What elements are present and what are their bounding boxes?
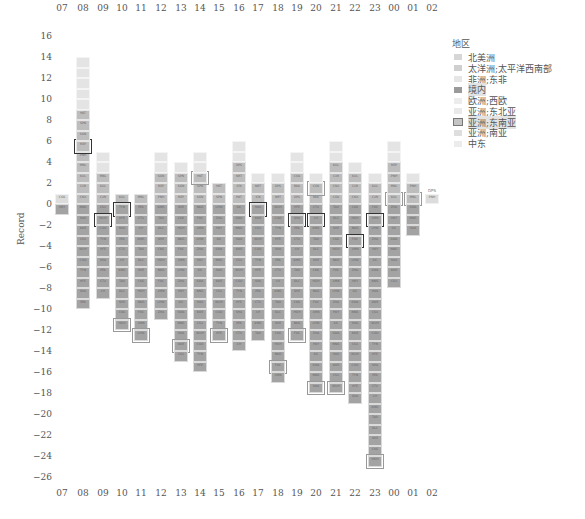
bar-block-domestic[interactable]: XMN xyxy=(134,320,148,331)
bar-block-domestic[interactable]: SHE xyxy=(290,288,304,299)
bar-block-domestic[interactable]: CKG xyxy=(271,330,285,341)
bar-block-domestic[interactable]: SHA xyxy=(96,257,110,268)
bar-block-foreign[interactable]: DPS xyxy=(290,194,304,205)
bar-block-foreign[interactable]: REP xyxy=(76,141,90,152)
bar-block-domestic[interactable]: HFE xyxy=(271,236,285,247)
bar-block-domestic[interactable]: HFE xyxy=(232,299,246,310)
bar-block-domestic[interactable]: HKY xyxy=(309,341,323,352)
bar-block-foreign[interactable] xyxy=(406,173,420,184)
bar-block-domestic[interactable]: XMN xyxy=(368,215,382,226)
bar-block-domestic[interactable]: ZHA xyxy=(174,278,188,289)
bar-block-domestic[interactable]: TYN xyxy=(115,204,129,215)
bar-block-domestic[interactable]: CKG xyxy=(329,236,343,247)
bar-block-domestic[interactable]: TAO xyxy=(251,330,265,341)
bar-block-domestic[interactable]: HGH xyxy=(309,278,323,289)
bar-block-domestic[interactable]: FOC xyxy=(309,299,323,310)
bar-block-domestic[interactable]: NKG xyxy=(309,288,323,299)
bar-block-domestic[interactable]: SWA xyxy=(232,215,246,226)
bar-block-foreign[interactable] xyxy=(251,173,265,184)
bar-block-domestic[interactable]: CGO xyxy=(348,362,362,373)
bar-block-domestic[interactable]: SHA xyxy=(348,393,362,404)
bar-block-foreign[interactable]: NRT xyxy=(232,173,246,184)
bar-block-domestic[interactable]: TYN xyxy=(232,288,246,299)
bar-block-domestic[interactable]: CSX xyxy=(193,320,207,331)
bar-block-foreign[interactable]: CXR xyxy=(348,183,362,194)
bar-block-foreign[interactable]: SPN xyxy=(174,173,188,184)
bar-block-foreign[interactable]: NRT xyxy=(271,194,285,205)
bar-block-domestic[interactable]: CTU xyxy=(271,267,285,278)
bar-block-foreign[interactable]: BKK xyxy=(309,194,323,205)
bar-block-domestic[interactable]: FOC xyxy=(329,267,343,278)
bar-block-domestic[interactable]: KWE xyxy=(387,267,401,278)
bar-block-foreign[interactable]: SGN xyxy=(193,194,207,205)
bar-block-domestic[interactable]: CTU xyxy=(134,215,148,226)
bar-block-domestic[interactable]: HGH xyxy=(271,341,285,352)
legend-item[interactable]: 亚洲;南亚 xyxy=(452,128,552,139)
bar-block-domestic[interactable]: CTU xyxy=(368,383,382,394)
bar-block-domestic[interactable]: SIC xyxy=(174,299,188,310)
bar-block-domestic[interactable]: TAO xyxy=(329,204,343,215)
bar-block-domestic[interactable]: PEK xyxy=(271,257,285,268)
bar-block-domestic[interactable]: LHW xyxy=(193,236,207,247)
bar-block-domestic[interactable]: CGO xyxy=(368,330,382,341)
bar-block-domestic[interactable]: HAK xyxy=(309,383,323,394)
bar-block-domestic[interactable]: SWA xyxy=(329,330,343,341)
bar-block-domestic[interactable]: XMN xyxy=(193,225,207,236)
bar-block-domestic[interactable]: CGO xyxy=(212,309,226,320)
bar-block-domestic[interactable]: LHW xyxy=(309,320,323,331)
bar-block-domestic[interactable]: XMN xyxy=(309,309,323,320)
bar-block-domestic[interactable]: SIC xyxy=(193,267,207,278)
bar-block-domestic[interactable]: CSX xyxy=(76,236,90,247)
bar-block-domestic[interactable]: SHE xyxy=(174,204,188,215)
bar-block-domestic[interactable]: CTU xyxy=(309,204,323,215)
bar-block-domestic[interactable]: ZHA xyxy=(387,204,401,215)
bar-block-domestic[interactable]: HKY xyxy=(55,204,69,215)
bar-block-domestic[interactable]: HAK xyxy=(193,299,207,310)
bar-block-foreign[interactable] xyxy=(76,57,90,68)
bar-block-domestic[interactable]: DLC xyxy=(329,215,343,226)
bar-block-foreign[interactable] xyxy=(96,152,110,163)
bar-block-domestic[interactable]: CKG xyxy=(154,246,168,257)
bar-block-foreign[interactable] xyxy=(387,141,401,152)
bar-block-foreign[interactable]: SPN xyxy=(76,120,90,131)
bar-block-domestic[interactable]: LHW xyxy=(134,330,148,341)
bar-block-domestic[interactable]: NNG xyxy=(193,288,207,299)
bar-block-foreign[interactable] xyxy=(193,152,207,163)
bar-block-foreign[interactable]: SGN xyxy=(174,183,188,194)
bar-block-foreign[interactable]: PNH xyxy=(76,152,90,163)
bar-block-domestic[interactable]: PEK xyxy=(251,288,265,299)
bar-block-domestic[interactable]: XIY xyxy=(271,278,285,289)
bar-block-domestic[interactable]: WUH xyxy=(251,236,265,247)
bar-block-domestic[interactable]: NKG xyxy=(329,257,343,268)
bar-block-domestic[interactable]: XMN xyxy=(329,278,343,289)
bar-block-domestic[interactable]: FOC xyxy=(348,236,362,247)
bar-block-domestic[interactable]: KWE xyxy=(368,299,382,310)
bar-block-domestic[interactable]: DLC xyxy=(309,246,323,257)
bar-block-domestic[interactable]: CKG xyxy=(309,267,323,278)
bar-block-domestic[interactable]: HAK xyxy=(174,330,188,341)
bar-block-foreign[interactable]: SGN xyxy=(154,173,168,184)
bar-block-foreign[interactable]: SGN xyxy=(76,131,90,142)
bar-block-domestic[interactable]: HAK xyxy=(251,204,265,215)
bar-block-domestic[interactable]: CSX xyxy=(368,309,382,320)
bar-block-foreign[interactable]: HKT xyxy=(232,194,246,205)
bar-block-domestic[interactable]: FOC xyxy=(368,204,382,215)
bar-block-domestic[interactable]: KMG xyxy=(368,404,382,415)
bar-block-domestic[interactable]: HKY xyxy=(348,278,362,289)
bar-block-domestic[interactable]: HFE xyxy=(193,362,207,373)
bar-block-domestic[interactable]: NNG xyxy=(174,320,188,331)
bar-block-domestic[interactable]: NNG xyxy=(387,246,401,257)
bar-block-domestic[interactable]: SHE xyxy=(271,320,285,331)
bar-block-domestic[interactable]: NKG xyxy=(193,204,207,215)
bar-block-domestic[interactable]: DLC xyxy=(368,425,382,436)
bar-block-domestic[interactable]: CSX xyxy=(96,204,110,215)
bar-block-domestic[interactable]: WUH xyxy=(368,320,382,331)
bar-block-domestic[interactable]: SWA xyxy=(368,267,382,278)
bar-block-foreign[interactable] xyxy=(348,162,362,173)
bar-block-foreign[interactable]: CGK xyxy=(309,183,323,194)
bar-block-domestic[interactable]: NKG xyxy=(154,267,168,278)
bar-block-domestic[interactable]: WUH xyxy=(348,351,362,362)
bar-block-domestic[interactable]: TAO xyxy=(290,267,304,278)
bar-block-domestic[interactable]: SHA xyxy=(290,215,304,226)
bar-block-foreign[interactable]: PNH xyxy=(154,194,168,205)
